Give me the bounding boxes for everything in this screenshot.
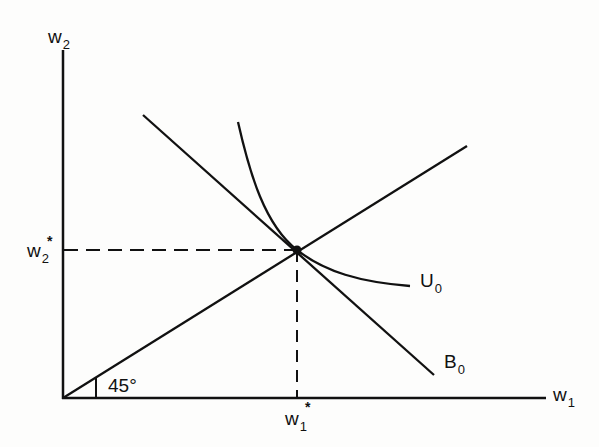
u0-subscript: 0 [435,281,442,296]
b0-main: B [444,351,457,372]
b0-subscript: 0 [458,362,465,377]
w1-star-main: w [285,408,299,429]
diagram-canvas [0,0,599,447]
w2-star-label: w2* [27,241,49,260]
y-axis-label-main: w [48,26,62,47]
w2-star-superscript: * [47,234,52,248]
indifference-curve-u0 [238,122,410,286]
w1-star-label: w1* [285,409,307,428]
equilibrium-point [293,246,302,255]
w2-star-main: w [27,240,41,261]
x-axis-label-subscript: 1 [568,395,575,410]
b0-label: B0 [444,352,465,371]
y-axis-label-subscript: 2 [63,37,70,52]
w1-star-subscript: 1 [300,419,307,434]
x-axis-label-main: w [553,384,567,405]
u0-main: U [420,270,434,291]
ray-45-degree [63,146,467,398]
budget-line-b0 [143,115,434,375]
x-axis-label: w1 [553,385,575,404]
y-axis-label: w2 [48,27,70,46]
u0-label: U0 [420,271,442,290]
w2-star-subscript: 2 [42,251,49,266]
w1-star-superscript: * [305,400,310,414]
angle-45-label: 45° [108,376,137,395]
